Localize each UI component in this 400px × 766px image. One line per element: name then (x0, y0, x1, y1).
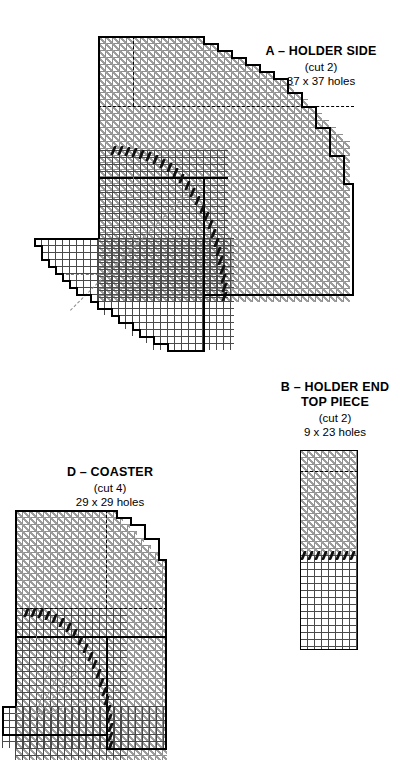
piece-a-guide-horizontal (98, 177, 228, 179)
piece-d-label: D – COASTER (cut 4) 29 x 29 holes (35, 465, 185, 510)
piece-d-texture-band (15, 559, 165, 566)
piece-a-texture-band (98, 141, 350, 148)
piece-d-texture-band (15, 545, 151, 552)
piece-d-texture-band (15, 531, 137, 538)
piece-d-texture-band (15, 538, 144, 545)
piece-a-wing-band (76, 287, 234, 294)
piece-a-wing-band (41, 252, 234, 259)
piece-a-texture-band (98, 71, 273, 78)
piece-a-centerline-horizontal (56, 274, 228, 275)
piece-a-texture-band (98, 43, 217, 50)
arc-stitch (104, 696, 111, 705)
piece-d-cut: (cut 4) (35, 482, 185, 496)
piece-a-texture-band (98, 57, 245, 64)
piece-a-wing-band (48, 259, 234, 266)
piece-d-size: 29 x 29 holes (35, 496, 185, 510)
piece-a-wing-band (104, 308, 234, 315)
arc-stitch (96, 669, 103, 678)
arc-stitch (99, 678, 106, 687)
arc-stitch (52, 614, 59, 623)
arc-stitch (220, 265, 227, 274)
piece-a-texture-band (98, 120, 329, 127)
piece-a-wing-band (118, 315, 234, 322)
arc-stitch (92, 660, 99, 669)
piece-d-centerline-vertical (36, 636, 37, 748)
arc-stitch (216, 247, 223, 256)
piece-a-texture-band (98, 127, 336, 134)
piece-a-texture-band (98, 106, 315, 113)
arc-stitch (45, 611, 52, 620)
arc-stitch (102, 687, 109, 696)
piece-d-texture-band (15, 552, 158, 559)
piece-a-wing-band (132, 329, 234, 336)
piece-a-texture-band (98, 78, 287, 85)
piece-a-texture-band (98, 50, 231, 57)
arc-stitch (106, 705, 113, 714)
piece-d-texture-band (15, 524, 130, 531)
arc-stitch (222, 283, 229, 292)
piece-a-wing-band (97, 301, 234, 308)
piece-a-holder-side: A – HOLDER SIDE (cut 2) 37 x 37 holes (0, 0, 400, 370)
arc-stitch (139, 150, 146, 159)
arc-stitch (107, 714, 114, 723)
piece-b-size: 9 x 23 holes (270, 426, 400, 440)
arc-stitch (218, 256, 225, 265)
piece-d-guide-horizontal (15, 636, 167, 638)
piece-d-dashed-vertical (106, 510, 107, 608)
arc-stitch (59, 618, 66, 627)
arc-stitch (208, 220, 215, 229)
piece-a-centerline-vertical (133, 177, 134, 287)
arc-stitch (38, 609, 45, 618)
piece-a-wing-band (125, 322, 234, 329)
piece-d-coaster: D – COASTER (cut 4) 29 x 29 holes (0, 460, 240, 766)
piece-b-title-line1: B – HOLDER END (270, 380, 400, 395)
piece-a-texture-band (98, 99, 308, 106)
piece-b-title-line2: TOP PIECE (270, 395, 400, 410)
piece-a-texture-band (98, 85, 294, 92)
piece-b-holder-end-top: B – HOLDER END TOP PIECE (cut 2) 9 x 23 … (250, 375, 400, 665)
arc-stitch (146, 152, 153, 161)
piece-a-dashed-vertical (133, 36, 134, 106)
piece-a-wing-band (146, 336, 234, 343)
piece-d-title: D – COASTER (35, 465, 185, 480)
piece-a-texture-band (98, 134, 343, 141)
arc-stitch (160, 159, 167, 168)
arc-stitch (211, 229, 218, 238)
piece-b-outline (300, 450, 358, 650)
arc-stitch (108, 723, 115, 732)
arc-stitch (153, 155, 160, 164)
piece-a-guide-vertical (203, 177, 205, 302)
piece-a-texture-band (98, 92, 301, 99)
piece-b-label: B – HOLDER END TOP PIECE (cut 2) 9 x 23 … (270, 380, 400, 440)
piece-a-texture-band (98, 113, 322, 120)
piece-a-wing-band (41, 245, 234, 252)
arc-stitch (214, 238, 221, 247)
piece-a-texture-band (98, 64, 259, 71)
piece-d-lower-strip (2, 706, 167, 766)
arc-stitch (132, 148, 139, 157)
piece-a-wing-band (55, 266, 234, 273)
arc-stitch (108, 732, 115, 741)
arc-stitch (221, 274, 228, 283)
piece-b-cut: (cut 2) (270, 412, 400, 426)
